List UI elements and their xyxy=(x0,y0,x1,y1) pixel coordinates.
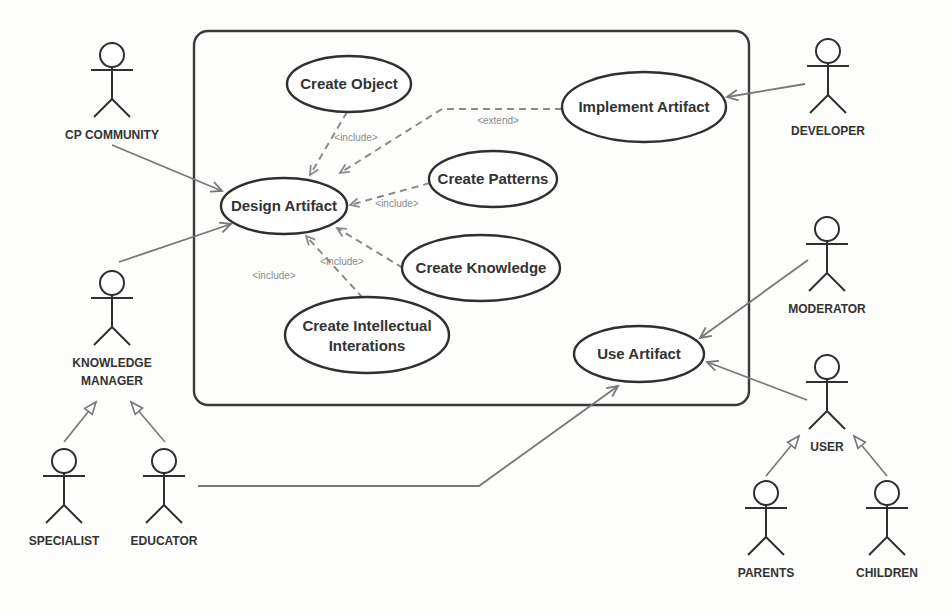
actor-label: CHILDREN xyxy=(856,566,918,580)
association-developer-implement_artifact xyxy=(727,84,805,100)
association-line xyxy=(707,362,807,400)
use-case-label-line2: Interations xyxy=(329,337,406,354)
use-case-ellipse[interactable] xyxy=(285,297,449,373)
association-line xyxy=(119,224,231,262)
actors: CP COMMUNITYDEVELOPERKNOWLEDGEMANAGERMOD… xyxy=(29,39,918,580)
extend-stereotype-label: <extend> xyxy=(477,115,519,126)
use-cases: Create ObjectImplement ArtifactDesign Ar… xyxy=(221,56,726,382)
use-case-label: Create Knowledge xyxy=(416,259,547,276)
actor-label: EDUCATOR xyxy=(131,534,198,548)
actor-label: DEVELOPER xyxy=(791,124,865,138)
use-case-create-patterns[interactable]: Create Patterns xyxy=(429,151,557,207)
stick-figure-icon xyxy=(806,217,848,291)
actor-label: MODERATOR xyxy=(788,302,866,316)
dependency-include: <include> xyxy=(350,183,430,209)
stick-figure-icon xyxy=(745,481,787,555)
generalizations xyxy=(64,402,887,476)
actor-children[interactable]: CHILDREN xyxy=(856,481,918,580)
actor-label: USER xyxy=(810,440,844,454)
stick-figure-icon xyxy=(91,271,133,345)
use-case-create-intellectual-interactions[interactable]: Create IntellectualInterations xyxy=(285,297,449,373)
association-cp_community-design_artifact xyxy=(112,145,222,192)
diagram-canvas: <include><extend><include><include><incl… xyxy=(0,0,952,614)
generalization-children-user xyxy=(854,436,887,476)
association-moderator-use_artifact xyxy=(700,260,808,338)
association-educator-use_artifact xyxy=(198,386,618,486)
association-line xyxy=(198,386,618,486)
use-case-label: Create Patterns xyxy=(438,170,549,187)
actor-label-line2: MANAGER xyxy=(81,374,143,388)
actor-label-line1: KNOWLEDGE xyxy=(72,356,151,370)
dependency-include: <include> xyxy=(252,236,363,298)
stick-figure-icon xyxy=(91,43,133,117)
actor-knowledge-manager[interactable]: KNOWLEDGEMANAGER xyxy=(72,271,151,388)
arrowhead-icon xyxy=(337,228,347,236)
actor-cp-community[interactable]: CP COMMUNITY xyxy=(65,43,159,142)
actor-educator[interactable]: EDUCATOR xyxy=(131,449,198,548)
use-case-design-artifact[interactable]: Design Artifact xyxy=(221,178,347,234)
use-case-implement-artifact[interactable]: Implement Artifact xyxy=(562,72,726,142)
use-case-label: Use Artifact xyxy=(597,345,681,362)
generalization-educator-knowledge_manager xyxy=(131,402,165,442)
actor-label: CP COMMUNITY xyxy=(65,128,159,142)
association-knowledge_manager-design_artifact xyxy=(119,223,231,262)
include-stereotype-label: <include> xyxy=(375,198,419,209)
stick-figure-icon xyxy=(143,449,185,523)
association-line xyxy=(112,145,222,191)
generalization-parents-user xyxy=(766,436,799,476)
use-case-create-knowledge[interactable]: Create Knowledge xyxy=(402,235,560,301)
generalization-triangle-icon xyxy=(85,402,96,414)
actor-developer[interactable]: DEVELOPER xyxy=(791,39,865,138)
stick-figure-icon xyxy=(43,449,85,523)
actor-label: PARENTS xyxy=(738,566,794,580)
actor-specialist[interactable]: SPECIALIST xyxy=(29,449,100,548)
generalization-specialist-knowledge_manager xyxy=(64,402,96,442)
actor-parents[interactable]: PARENTS xyxy=(738,481,794,580)
actor-user[interactable]: USER xyxy=(806,355,848,454)
association-line xyxy=(727,84,805,97)
actor-label: SPECIALIST xyxy=(29,534,100,548)
stick-figure-icon xyxy=(806,355,848,429)
use-case-diagram: <include><extend><include><include><incl… xyxy=(0,0,952,614)
use-case-label: Design Artifact xyxy=(231,197,337,214)
use-case-label: Create Object xyxy=(300,75,398,92)
use-case-label: Implement Artifact xyxy=(578,98,709,115)
include-stereotype-label: <include> xyxy=(252,270,296,281)
use-case-create-object[interactable]: Create Object xyxy=(287,56,411,112)
include-stereotype-label: <include> xyxy=(334,132,378,143)
dependency-include: <include> xyxy=(320,228,403,268)
use-case-label-line1: Create Intellectual xyxy=(302,317,431,334)
stick-figure-icon xyxy=(866,481,908,555)
stick-figure-icon xyxy=(807,39,849,113)
association-line xyxy=(700,260,808,338)
association-user-use_artifact xyxy=(707,361,807,400)
use-case-use-artifact[interactable]: Use Artifact xyxy=(574,326,704,382)
dependency-line xyxy=(306,236,363,298)
dependency-line xyxy=(310,112,347,175)
